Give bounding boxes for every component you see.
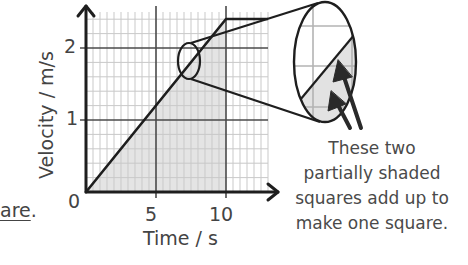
truncated-word-text: are <box>0 199 31 221</box>
y-tick-2: 2 <box>64 35 76 57</box>
annotation-caption: These two partially shaded squares add u… <box>282 136 462 236</box>
y-axis-label: Velocity / m/s <box>35 35 57 195</box>
truncated-word: are. <box>0 199 37 221</box>
x-tick-0: 0 <box>68 190 80 212</box>
magnified-view <box>290 0 360 125</box>
x-tick-10: 10 <box>209 203 233 225</box>
caption-line-2: partially shaded <box>282 161 462 186</box>
caption-line-4: make one square. <box>282 211 462 236</box>
x-tick-5: 5 <box>145 203 157 225</box>
truncated-word-period: . <box>31 199 37 221</box>
x-axis-label: Time / s <box>143 227 218 249</box>
y-tick-1: 1 <box>66 107 78 129</box>
caption-line-1: These two <box>282 136 462 161</box>
caption-line-3: squares add up to <box>282 186 462 211</box>
